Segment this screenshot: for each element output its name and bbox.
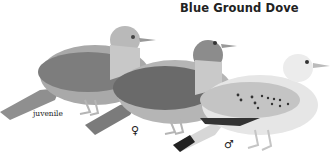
illustration-canvas: Blue Ground Dove juvenile ♀ ♂ bbox=[0, 0, 331, 161]
female-symbol: ♀ bbox=[131, 124, 139, 137]
male-symbol: ♂ bbox=[224, 138, 234, 151]
species-title: Blue Ground Dove bbox=[180, 1, 299, 15]
doves-illustration bbox=[0, 0, 331, 161]
juvenile-label: juvenile bbox=[33, 109, 63, 118]
